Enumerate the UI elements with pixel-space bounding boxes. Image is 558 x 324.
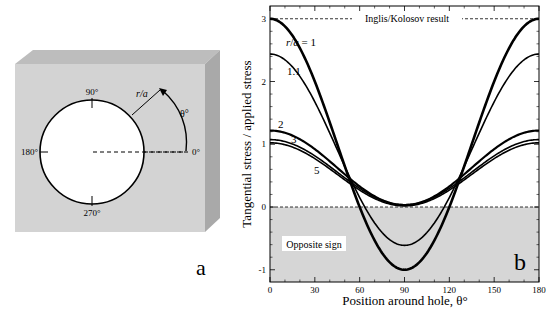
svg-text:2: 2 [262,77,267,87]
angle-label-180: 180° [21,147,39,157]
svg-text:150: 150 [487,285,501,295]
svg-text:30: 30 [310,285,320,295]
theta-label: θ° [180,108,189,119]
angle-label-90: 90° [86,87,99,97]
figure: 90° 180° 270° 0° r/a θ° a 03060901201501… [0,0,558,324]
block-top-face [15,50,220,64]
panel-a-label: a [196,255,206,280]
angle-label-0: 0° [192,147,201,157]
series-label-1-1: 1.1 [287,65,301,77]
radius-label: r/a [136,88,148,99]
svg-text:0: 0 [262,202,267,212]
curve-r-a-3 [270,140,539,205]
reference-label: Inglis/Kolosov result [365,13,449,24]
panel-b: 0306090120150180-10123 Inglis/Kolosov re… [239,6,546,308]
x-axis-label: Position around hole, θ° [342,293,468,308]
svg-text:-1: -1 [259,265,267,275]
svg-text:1: 1 [262,139,267,149]
series-label-r1: r/a = 1 [286,36,316,48]
panel-b-label: b [514,249,526,275]
series-label-2: 2 [278,118,284,130]
series-label-5: 5 [314,164,320,176]
y-axis-label: Tangential stress / applied stress [239,60,254,227]
curve-r-a-2 [270,131,539,206]
svg-text:0: 0 [268,285,273,295]
angle-label-270: 270° [83,208,101,218]
series-label-3: 3 [291,133,297,145]
panel-a: 90° 180° 270° 0° r/a θ° a [15,50,220,280]
svg-text:180: 180 [532,285,546,295]
block-side-face [205,50,220,232]
svg-text:3: 3 [262,14,267,24]
opposite-sign-label: Opposite sign [286,239,341,250]
